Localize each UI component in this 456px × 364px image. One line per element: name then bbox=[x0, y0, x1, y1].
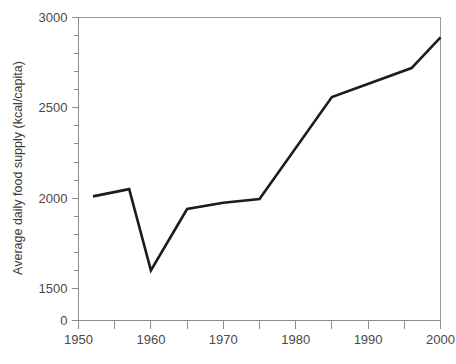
data-series-line bbox=[93, 37, 441, 270]
x-tick-label-1950: 1950 bbox=[64, 332, 93, 347]
y-tick-label-2000: 2000 bbox=[39, 191, 68, 206]
y-axis-minor-ticks bbox=[74, 36, 79, 271]
x-tick-label-1960: 1960 bbox=[136, 332, 165, 347]
x-tick-label-1980: 1980 bbox=[281, 332, 310, 347]
x-tick-label-1990: 1990 bbox=[354, 332, 383, 347]
y-tick-label-1500: 1500 bbox=[39, 281, 68, 296]
x-tick-label-1970: 1970 bbox=[209, 332, 238, 347]
y-axis-title: Average daily food supply (kcal/capita) bbox=[11, 61, 25, 275]
plot-frame bbox=[79, 18, 441, 321]
x-axis-tick-labels: 195019601970198019902000 bbox=[64, 332, 455, 347]
y-tick-label-0: 0 bbox=[60, 313, 67, 328]
line-chart: 30002500200015000 1950196019701980199020… bbox=[0, 0, 456, 364]
chart-container: 30002500200015000 1950196019701980199020… bbox=[0, 0, 456, 364]
y-tick-label-3000: 3000 bbox=[39, 10, 68, 25]
y-tick-label-2500: 2500 bbox=[39, 100, 68, 115]
x-axis-minor-ticks bbox=[115, 321, 405, 329]
y-axis-major-ticks bbox=[72, 18, 79, 321]
y-axis-tick-labels: 30002500200015000 bbox=[39, 10, 68, 328]
x-tick-label-2000: 2000 bbox=[426, 332, 455, 347]
